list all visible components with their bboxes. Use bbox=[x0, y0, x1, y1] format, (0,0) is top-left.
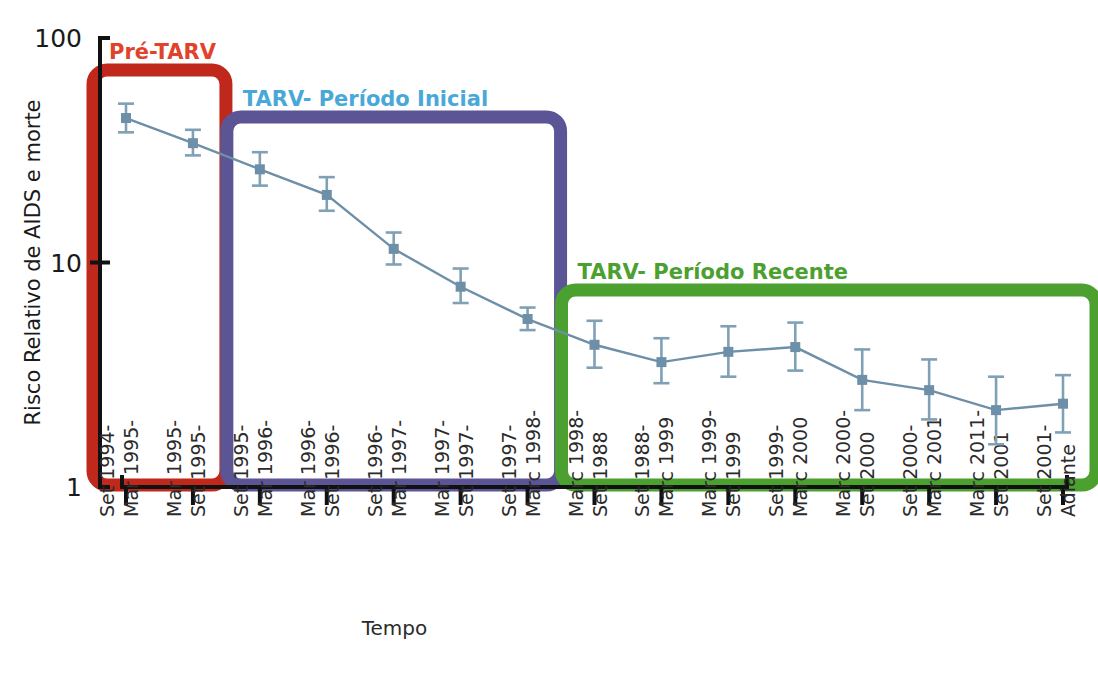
x-tick-label: Mar 1996- bbox=[254, 420, 276, 517]
x-tick-label: Marc 1998- bbox=[565, 410, 587, 517]
x-tick-label: Set 2001- bbox=[1033, 425, 1055, 517]
y-tick-label-100: 100 bbox=[34, 24, 82, 53]
y-tick-label-1: 1 bbox=[66, 473, 82, 502]
x-tick-label: Set 1996- bbox=[364, 425, 386, 517]
y-axis-title: Risco Relativo de AIDS e morte bbox=[21, 99, 45, 425]
x-axis-title: Tempo bbox=[361, 616, 428, 640]
y-tick-label-10: 10 bbox=[50, 249, 82, 278]
data-point-marker bbox=[121, 113, 131, 123]
x-tick-label: Set 2000- bbox=[899, 425, 921, 517]
x-tick-label: Marc 1999- bbox=[698, 410, 720, 517]
data-point-marker bbox=[656, 357, 666, 367]
x-tick-label: Marc 1998- bbox=[522, 410, 544, 517]
x-tick-label: Mar 1996- bbox=[297, 420, 319, 517]
data-point-marker bbox=[255, 164, 265, 174]
x-tick-label: Adiante bbox=[1057, 444, 1079, 517]
data-point-marker bbox=[523, 314, 533, 324]
annotation-label-pre-tarv: Pré-TARV bbox=[109, 40, 217, 64]
x-tick-label: Marc 2001 bbox=[923, 417, 945, 517]
data-point-marker bbox=[590, 340, 600, 350]
data-point-marker bbox=[790, 342, 800, 352]
x-tick-label: Mar 1997- bbox=[431, 420, 453, 517]
data-point-marker bbox=[723, 347, 733, 357]
x-tick-label: Set 1999- bbox=[765, 425, 787, 517]
x-tick-label: Set 2000 bbox=[856, 431, 878, 517]
x-tick-label: Set 1988 bbox=[589, 431, 611, 517]
chart-figure: Pré-TARVTARV- Período InicialTARV- Perío… bbox=[0, 0, 1098, 676]
x-tick-label: Mar 1997- bbox=[388, 420, 410, 517]
data-point-marker bbox=[1058, 399, 1068, 409]
x-tick-label: Marc 1999 bbox=[655, 417, 677, 517]
x-tick-label: Set 1997- bbox=[498, 425, 520, 517]
x-tick-label: Marc 2000 bbox=[789, 417, 811, 517]
x-tick-label: Marc 2000- bbox=[832, 410, 854, 517]
x-tick-label: Set 1997- bbox=[455, 425, 477, 517]
x-tick-label: Set 1995- bbox=[230, 425, 252, 517]
data-point-marker bbox=[188, 138, 198, 148]
x-tick-label: Set 1999 bbox=[722, 431, 744, 517]
data-point-marker bbox=[456, 282, 466, 292]
x-tick-label: Set 1988- bbox=[631, 425, 653, 517]
x-tick-label: Set 1994- bbox=[96, 425, 118, 517]
data-point-marker bbox=[389, 244, 399, 254]
annotation-label-tarv-inicial: TARV- Período Inicial bbox=[243, 87, 488, 111]
annotation-box-pre-tarv bbox=[93, 70, 226, 485]
x-tick-label: Mar 1995- bbox=[163, 420, 185, 517]
data-point-marker bbox=[991, 405, 1001, 415]
x-tick-label: Set 1995- bbox=[187, 425, 209, 517]
chart-svg: Pré-TARVTARV- Período InicialTARV- Perío… bbox=[0, 0, 1098, 676]
data-point-marker bbox=[322, 190, 332, 200]
data-point-marker bbox=[924, 385, 934, 395]
x-tick-label: Set 1996- bbox=[321, 425, 343, 517]
x-tick-label: Marc 2011- bbox=[966, 410, 988, 517]
x-tick-label: Mar 1995- bbox=[120, 420, 142, 517]
annotation-label-tarv-recente: TARV- Período Recente bbox=[578, 260, 849, 284]
data-point-marker bbox=[857, 375, 867, 385]
plot-layer: Pré-TARVTARV- Período InicialTARV- Perío… bbox=[21, 24, 1096, 640]
